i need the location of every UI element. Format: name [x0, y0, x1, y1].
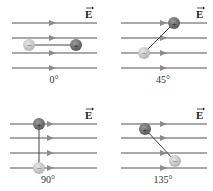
field-label: E	[85, 7, 94, 21]
negative-charge: −	[23, 39, 35, 51]
field-lines	[121, 124, 207, 168]
positive-charge: +	[139, 123, 151, 135]
field-arrow-icons	[47, 121, 54, 171]
negative-sign: −	[172, 156, 177, 166]
angle-label: 90°	[41, 174, 55, 185]
positive-sign: +	[36, 120, 41, 130]
positive-charge: +	[70, 39, 82, 51]
field-arrow-icons	[160, 20, 167, 71]
negative-sign: −	[36, 163, 41, 173]
positive-charge: +	[33, 118, 45, 130]
dipole-diagram: − + E 0° −	[0, 0, 213, 191]
field-label: E	[196, 7, 205, 21]
negative-charge: −	[138, 47, 150, 59]
positive-sign: +	[171, 19, 176, 29]
field-lines	[10, 124, 97, 168]
negative-sign: −	[26, 40, 31, 50]
angle-label: 45°	[156, 74, 170, 85]
positive-charge: +	[168, 17, 180, 29]
panel-135-degrees: + − E 135°	[121, 108, 207, 186]
field-label: E	[196, 108, 205, 122]
positive-sign: +	[142, 125, 147, 135]
svg-text:E: E	[196, 109, 203, 121]
svg-text:E: E	[196, 8, 203, 20]
field-label: E	[85, 108, 94, 122]
negative-charge: −	[33, 162, 45, 174]
angle-label: 0°	[50, 74, 59, 85]
svg-text:E: E	[85, 8, 92, 20]
negative-charge: −	[169, 155, 181, 167]
field-lines	[121, 23, 207, 68]
panel-0-degrees: − + E 0°	[12, 7, 97, 86]
negative-sign: −	[141, 48, 146, 58]
panel-45-degrees: − + E 45°	[121, 7, 207, 86]
dipole-rod	[145, 129, 175, 161]
angle-label: 135°	[154, 174, 173, 185]
svg-text:E: E	[85, 109, 92, 121]
positive-sign: +	[73, 41, 78, 51]
panel-90-degrees: + − E 90°	[10, 108, 97, 186]
